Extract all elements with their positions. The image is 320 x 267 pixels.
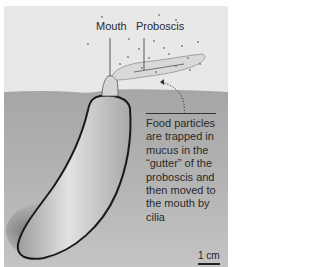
- caption-rule: [146, 113, 216, 114]
- caption-text: Food particles are trapped in mucus in t…: [146, 117, 228, 224]
- label-proboscis: Proboscis: [136, 20, 184, 33]
- scale-bar: [198, 263, 220, 265]
- scale-bar-label: 1 cm: [198, 250, 220, 261]
- label-mouth: Mouth: [96, 20, 127, 33]
